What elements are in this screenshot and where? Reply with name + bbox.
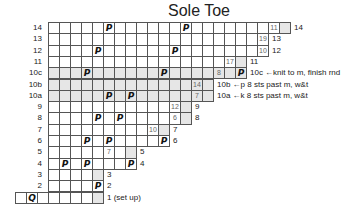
row-note: 3 [107, 170, 111, 179]
row-label: 9 [22, 102, 42, 111]
purl-stitch-icon: P [106, 136, 113, 146]
row-label: 10a [22, 91, 42, 100]
purl-stitch-icon: P [106, 91, 113, 101]
purl-stitch-icon: P [238, 68, 245, 78]
purl-stitch-icon: P [183, 23, 190, 33]
row-note: 7 [173, 125, 177, 134]
purl-stitch-icon: P [172, 46, 179, 56]
row-note: 6 [173, 136, 177, 145]
row-note: 4 [140, 159, 144, 168]
purl-stitch-icon: P [95, 181, 102, 191]
purl-stitch-icon: P [161, 68, 168, 78]
setup-stitch-icon: Q [28, 193, 36, 203]
purl-stitch-icon: P [84, 159, 91, 169]
chart-cell [180, 112, 192, 124]
row-note: 10c ←knit to m, finish rnd [250, 68, 340, 77]
row-label: 2 [22, 181, 42, 190]
row-note: 9 [195, 102, 199, 111]
row-note: 8 [195, 113, 199, 122]
chart-cell: 10 [257, 45, 269, 57]
purl-stitch-icon: P [95, 113, 102, 123]
row-note: 10b ←p 8 sts past m, w&t [217, 80, 308, 89]
row-label: 14 [22, 23, 42, 32]
chart-cell [202, 90, 214, 102]
row-label: 10b [22, 80, 42, 89]
purl-stitch-icon: P [62, 159, 69, 169]
row-label: 8 [22, 113, 42, 122]
row-label: 7 [22, 125, 42, 134]
chart-cell [279, 22, 291, 34]
row-label: 11 [22, 57, 42, 66]
purl-stitch-icon: P [95, 46, 102, 56]
purl-stitch-icon: P [161, 136, 168, 146]
row-label: 6 [22, 136, 42, 145]
chart-cell [92, 192, 104, 204]
row-note: 10a ←k 8 sts past m, w&t [217, 91, 308, 100]
row-label: 5 [22, 147, 42, 156]
row-label: 3 [22, 170, 42, 179]
purl-stitch-icon: P [84, 68, 91, 78]
row-note: 12 [272, 46, 281, 55]
purl-stitch-icon: P [106, 23, 113, 33]
row-note: 14 [294, 23, 303, 32]
row-note: 1 (set up) [107, 193, 141, 202]
chart-title: Sole Toe [0, 2, 342, 20]
row-note: 2 [107, 181, 111, 190]
row-label: 12 [22, 46, 42, 55]
chart-cell: P [125, 158, 137, 170]
row-note: 13 [272, 34, 281, 43]
row-note: 5 [140, 147, 144, 156]
row-label: 10c [22, 68, 42, 77]
row-label: 4 [22, 159, 42, 168]
purl-stitch-icon: P [117, 113, 124, 123]
row-label: 13 [22, 34, 42, 43]
purl-stitch-icon: P [128, 91, 135, 101]
purl-stitch-icon: P [128, 159, 135, 169]
chart-cell: P [158, 135, 170, 147]
row-note: 11 [250, 57, 258, 66]
chart-cell: P [235, 67, 247, 79]
purl-stitch-icon: P [84, 136, 91, 146]
